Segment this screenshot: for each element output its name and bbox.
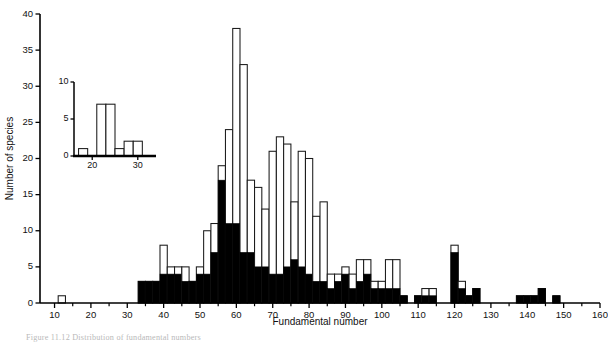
bar-subset [327,289,334,303]
inset-y-tick-label: 10 [58,76,68,86]
bar-total [58,296,65,303]
inset-y-tick-label: 5 [63,113,68,123]
bar-subset [262,267,269,303]
bar-subset [553,296,560,303]
y-tick-label: 20 [22,152,33,163]
figure-caption: Figure 11.12 Distribution of fundamental… [26,333,201,342]
bar-subset [371,289,378,303]
bar-subset [415,296,422,303]
inset-chart: 05102030 [52,76,162,181]
bar-subset [167,274,174,303]
inset-bar [97,104,106,156]
bar-subset [225,224,232,303]
x-axis-title: Fundamental number [272,316,368,327]
bar-subset [218,180,225,303]
bar-subset [451,252,458,303]
x-tick-label: 120 [447,309,463,320]
x-tick-label: 40 [158,309,169,320]
bar-subset [531,296,538,303]
bar-subset [320,281,327,303]
bar-subset [385,289,392,303]
x-tick-label: 140 [519,309,535,320]
figure-container: 0510152025303540102030405060708090100110… [0,0,608,349]
bar-subset [538,289,545,303]
bar-subset [393,289,400,303]
bar-subset [291,260,298,303]
bar-subset [145,281,152,303]
y-tick-label: 35 [22,44,33,55]
inset-x-tick-label: 20 [87,160,97,170]
y-tick-label: 15 [22,188,33,199]
inset-x-tick-label: 30 [133,160,143,170]
bar-subset [400,296,407,303]
bar-subset [175,274,182,303]
x-tick-label: 100 [374,309,390,320]
bar-subset [458,289,465,303]
inset-chart-svg: 05102030 [52,76,162,181]
bar-subset [335,281,342,303]
bar-subset [305,274,312,303]
bar-subset [196,274,203,303]
x-tick-label: 20 [86,309,97,320]
bar-subset [153,281,160,303]
y-axis-title: Number of species [4,117,15,200]
x-tick-label: 110 [411,309,426,320]
y-tick-label: 0 [28,297,33,308]
bar-subset [211,252,218,303]
bar-subset [138,281,145,303]
bar-subset [182,281,189,303]
bar-subset [342,274,349,303]
inset-bar [133,141,142,156]
x-tick-label: 60 [231,309,242,320]
bar-subset [160,274,167,303]
bar-subset [429,296,436,303]
bar-subset [364,274,371,303]
inset-bar [106,104,115,156]
bar-subset [240,252,247,303]
bar-subset [189,281,196,303]
inset-y-tick-label: 0 [63,150,68,160]
inset-bar [124,141,133,156]
bar-subset [349,289,356,303]
bar-subset [473,289,480,303]
x-tick-label: 150 [556,309,572,320]
x-tick-label: 30 [122,309,133,320]
bar-subset [378,289,385,303]
bar-subset [204,274,211,303]
bar-subset [356,281,363,303]
bar-subset [284,267,291,303]
y-tick-label: 25 [22,116,33,127]
bar-subset [298,267,305,303]
bar-subset [465,296,472,303]
bar-subset [276,274,283,303]
bar-subset [313,281,320,303]
x-tick-label: 50 [195,309,206,320]
bar-subset [233,224,240,303]
x-tick-label: 130 [483,309,499,320]
y-tick-label: 40 [22,8,33,19]
bar-subset [524,296,531,303]
bar-subset [269,274,276,303]
bar-subset [422,296,429,303]
y-tick-label: 30 [22,80,33,91]
y-tick-label: 10 [22,224,33,235]
bar-subset [255,267,262,303]
x-tick-label: 10 [49,309,60,320]
x-tick-label: 160 [592,309,608,320]
bar-subset [516,296,523,303]
y-tick-label: 5 [28,260,33,271]
bar-subset [247,252,254,303]
